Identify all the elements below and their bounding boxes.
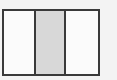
part-2-shaded (36, 11, 66, 74)
fraction-bar (2, 9, 100, 76)
part-3-unshaded (66, 11, 98, 74)
part-1-unshaded (4, 11, 36, 74)
